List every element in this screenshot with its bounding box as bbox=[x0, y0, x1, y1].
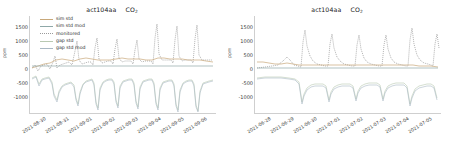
series-line-gap-std-mod bbox=[257, 78, 437, 106]
series-line-gap-std bbox=[257, 77, 437, 104]
panel-right-xaxis-spine bbox=[254, 113, 441, 114]
panel-left-ytick: 1000 bbox=[2, 38, 28, 44]
panel-left-title-species-sub: 2 bbox=[135, 9, 138, 14]
panel-right-ytick: 1000 bbox=[227, 38, 253, 44]
panel-right-ytick: 1500 bbox=[227, 24, 253, 30]
panel-left-ytick: -1000 bbox=[2, 94, 28, 100]
legend-item: gap std mod bbox=[40, 45, 85, 52]
legend-item: gap std bbox=[40, 38, 85, 45]
panel-left-ytick: 0 bbox=[2, 66, 28, 72]
series-line-sim-std bbox=[257, 62, 438, 67]
panel-left-ytick: -500 bbox=[2, 80, 28, 86]
panel-right-ytick: -500 bbox=[227, 80, 253, 86]
panel-right-ytick-column: 1500 1000 500 0 -500 -1000 bbox=[225, 0, 253, 149]
panel-right-plot-area bbox=[255, 16, 441, 113]
legend-swatch-sim-std-mod bbox=[40, 26, 53, 27]
panel-right-title-station: act104aa bbox=[311, 6, 341, 13]
panel-left-legend: sim std sim std mod monitored gap std ga… bbox=[40, 16, 85, 52]
legend-label-gap-std-mod: gap std mod bbox=[56, 46, 85, 51]
legend-label-sim-std-mod: sim std mod bbox=[56, 24, 85, 29]
legend-swatch-gap-std bbox=[40, 41, 53, 42]
figure-two-panel-timeseries: act104aaCO2 ppm 1500 1000 500 0 -500 -10… bbox=[0, 0, 449, 149]
legend-label-sim-std: sim std bbox=[56, 17, 73, 22]
panel-left-title-species: CO bbox=[125, 6, 135, 13]
panel-right-ytick: 0 bbox=[227, 66, 253, 72]
series-line-monitored bbox=[257, 28, 439, 68]
panel-right-title: act104aaCO2 bbox=[225, 6, 449, 13]
panel-right-title-species-sub: 2 bbox=[360, 9, 363, 14]
panel-right-ytick: 500 bbox=[227, 52, 253, 58]
panel-left-ytick: 500 bbox=[2, 52, 28, 58]
panel-left-xaxis-spine bbox=[29, 113, 216, 114]
panel-left: act104aaCO2 ppm 1500 1000 500 0 -500 -10… bbox=[0, 0, 224, 149]
legend-item: sim std mod bbox=[40, 23, 85, 30]
legend-label-monitored: monitored bbox=[56, 32, 80, 37]
legend-item: sim std bbox=[40, 16, 85, 23]
panel-left-ytick-column: 1500 1000 500 0 -500 -1000 bbox=[0, 0, 28, 149]
legend-item: monitored bbox=[40, 30, 85, 37]
legend-swatch-sim-std bbox=[40, 19, 53, 20]
panel-right-title-species: CO bbox=[350, 6, 360, 13]
series-line-sim-std bbox=[32, 58, 213, 68]
panel-right: act104aaCO2 ppm 1500 1000 500 0 -500 -10… bbox=[225, 0, 449, 149]
panel-left-ytick: 1500 bbox=[2, 24, 28, 30]
legend-swatch-gap-std-mod bbox=[40, 48, 53, 49]
panel-right-svg bbox=[255, 16, 441, 113]
legend-swatch-monitored bbox=[40, 33, 53, 34]
panel-left-title: act104aaCO2 bbox=[0, 6, 224, 13]
panel-left-title-station: act104aa bbox=[86, 6, 116, 13]
panel-right-ytick: -1000 bbox=[227, 94, 253, 100]
legend-label-gap-std: gap std bbox=[56, 39, 74, 44]
